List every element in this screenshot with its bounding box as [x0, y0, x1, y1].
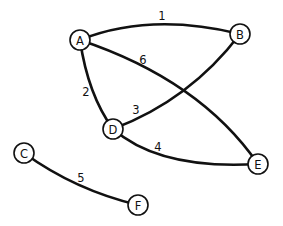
- node-d-label: D: [109, 123, 118, 137]
- node-b: B: [230, 24, 250, 44]
- edges-layer: [24, 24, 258, 205]
- node-e-label: E: [254, 158, 261, 172]
- weight-label-a-e: 6: [139, 53, 146, 67]
- node-b-label: B: [236, 28, 244, 42]
- edge-a-b: [80, 24, 240, 40]
- node-e: E: [248, 154, 268, 174]
- weight-label-d-b: 3: [132, 103, 139, 117]
- node-a-label: A: [76, 34, 84, 48]
- node-f-label: F: [135, 199, 142, 213]
- weight-label-c-f: 5: [77, 171, 84, 185]
- node-d: D: [103, 119, 123, 139]
- node-f: F: [128, 195, 148, 215]
- weight-label-d-e: 4: [154, 140, 161, 154]
- node-a: A: [70, 30, 90, 50]
- graph-diagram: 1 2 3 4 5 6 A B D E C F: [0, 0, 283, 226]
- edge-d-e: [113, 129, 258, 165]
- node-c-label: C: [20, 147, 28, 161]
- weight-label-a-b: 1: [158, 9, 165, 23]
- weight-label-a-d: 2: [82, 85, 89, 99]
- node-c: C: [14, 143, 34, 163]
